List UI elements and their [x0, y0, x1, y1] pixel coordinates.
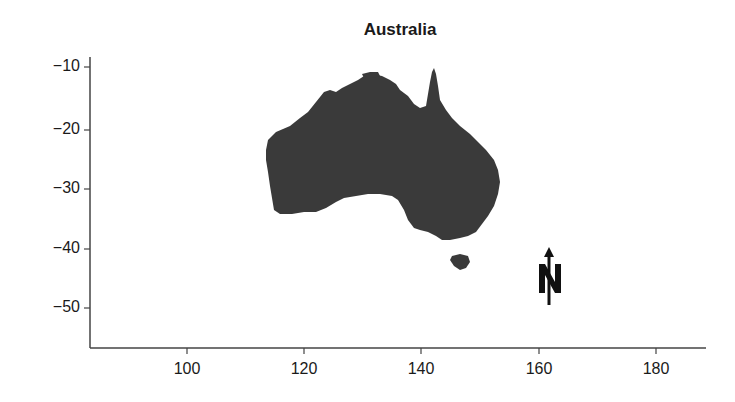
australia-landmass	[266, 68, 500, 240]
x-tick-label: 160	[514, 360, 564, 378]
x-tick-label: 140	[396, 360, 446, 378]
y-tick-label: −50	[30, 298, 80, 316]
x-tick-label: 100	[162, 360, 212, 378]
tasmania	[450, 254, 470, 270]
y-tick-label: −20	[30, 120, 80, 138]
y-tick-label: −40	[30, 239, 80, 257]
y-tick-label: −30	[30, 179, 80, 197]
x-tick-label: 180	[631, 360, 681, 378]
north-arrow-icon	[539, 247, 561, 305]
y-ticks	[84, 67, 90, 308]
map-plot	[0, 0, 735, 402]
y-tick-label: −10	[30, 57, 80, 75]
x-tick-label: 120	[279, 360, 329, 378]
x-ticks	[187, 348, 656, 354]
